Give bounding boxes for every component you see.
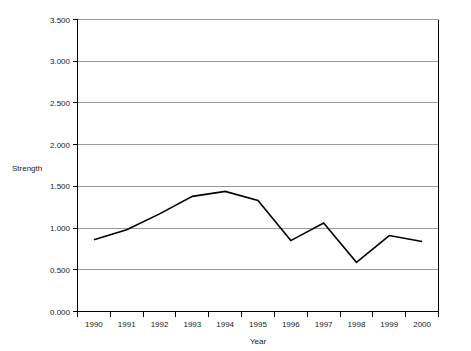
y-tick-label: 2.500: [28, 98, 70, 107]
y-tick-label: 2.000: [28, 140, 70, 149]
x-tick-label: 2000: [413, 320, 431, 329]
x-tick-label: 1992: [151, 320, 169, 329]
plot-area: [0, 0, 471, 351]
axis-frame: [78, 20, 439, 312]
x-tick-label: 1997: [315, 320, 333, 329]
x-axis-title: Year: [250, 337, 266, 346]
x-tick-label: 1996: [282, 320, 300, 329]
x-tick-label: 1993: [183, 320, 201, 329]
gridlines: [78, 20, 439, 270]
x-tick-label: 1991: [118, 320, 136, 329]
y-tick-label: 3.500: [28, 15, 70, 24]
y-tick-label: 1.000: [28, 224, 70, 233]
y-tick-label: 0.500: [28, 265, 70, 274]
y-tick-label: 0.000: [28, 307, 70, 316]
x-tick-label: 1990: [85, 320, 103, 329]
data-series-line: [94, 191, 422, 262]
x-tick-label: 1995: [249, 320, 267, 329]
line-chart: 0.0000.5001.0001.5002.0002.5003.0003.500…: [0, 0, 471, 351]
y-axis-title: Strength: [12, 164, 42, 173]
x-tick-label: 1994: [216, 320, 234, 329]
x-tick-label: 1998: [348, 320, 366, 329]
x-tick-label: 1999: [380, 320, 398, 329]
y-tick-label: 3.000: [28, 57, 70, 66]
y-tick-label: 1.500: [28, 182, 70, 191]
